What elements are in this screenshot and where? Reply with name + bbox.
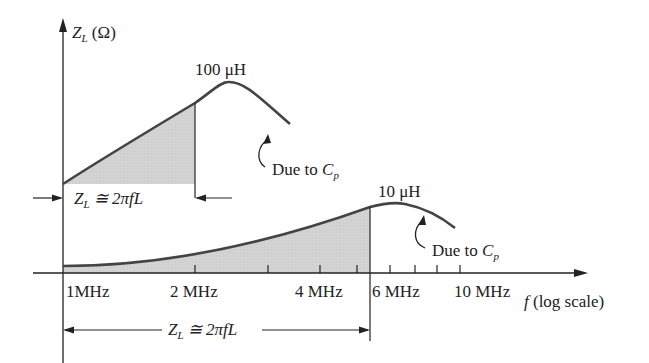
annotation-sub: p — [333, 169, 339, 181]
y-axis-arrow — [59, 18, 67, 32]
zl-sub: L — [83, 198, 89, 210]
curve-label-100uh: 100 μH — [195, 61, 246, 78]
annotation-text: Due to — [272, 160, 318, 179]
tick-label-1mhz: 1MHz — [66, 283, 109, 300]
linear-region-label-bottom: ZL ≅ 2πfL — [168, 321, 237, 341]
tick-label-2mhz: 2 MHz — [170, 283, 218, 300]
y-label-unit: (Ω) — [92, 23, 116, 42]
y-label-sub: L — [81, 32, 87, 44]
y-axis-label: ZL (Ω) — [72, 24, 116, 44]
zl-eq: ≅ 2πfL — [94, 189, 143, 208]
annotation-sym: C — [322, 160, 333, 179]
tick-label-10mhz: 10 MHz — [454, 283, 510, 300]
zl-sub: L — [177, 329, 183, 341]
x-label-f: f — [524, 292, 529, 311]
curve-label-10uh: 10 μH — [378, 183, 421, 200]
x-label-rest: (log scale) — [533, 292, 604, 311]
shaded-linear-region-10uh — [63, 207, 370, 273]
x-axis-label: f (log scale) — [524, 293, 604, 310]
x-axis-arrow — [574, 269, 588, 277]
annotation-cp-10uh: Due to Cp — [432, 242, 499, 262]
cp-arrow-100uh — [259, 140, 268, 167]
tick-label-4mhz: 4 MHz — [295, 283, 343, 300]
annotation-sub: p — [493, 250, 499, 262]
cp-arrow-10uh — [415, 222, 425, 248]
linear-region-label-top: ZL ≅ 2πfL — [74, 190, 143, 210]
zl-eq: ≅ 2πfL — [188, 320, 237, 339]
annotation-sym: C — [482, 241, 493, 260]
annotation-cp-100uh: Due to Cp — [272, 161, 339, 181]
tick-label-6mhz: 6 MHz — [372, 283, 420, 300]
annotation-text: Due to — [432, 241, 478, 260]
